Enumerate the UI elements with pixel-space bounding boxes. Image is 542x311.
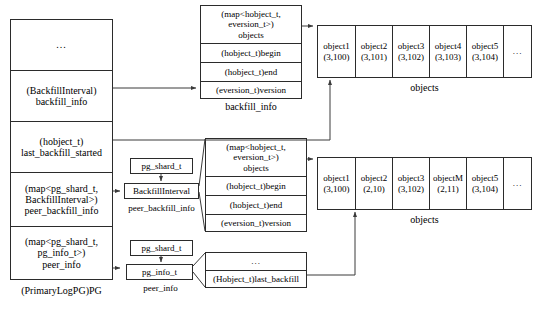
objects-table-bottom-caption: objects xyxy=(317,214,532,225)
object-name: object5 xyxy=(472,41,499,51)
backfill-info-box: (map<hobject_t, eversion_t>) objects (ho… xyxy=(200,5,302,99)
peer-backfill-detail-field-begin: (hobject_t)begin xyxy=(206,176,306,195)
backfill-info-field-objects: (map<hobject_t, eversion_t>) objects xyxy=(201,6,301,43)
backfill-info-field-end: (hobject_t)end xyxy=(201,62,301,81)
peer-info-key-box: pg_shard_t xyxy=(130,240,193,256)
objects-cell: object2 (2,10) xyxy=(355,158,392,209)
object-name: ... xyxy=(513,46,523,56)
pg-field-ellipsis: ... xyxy=(11,20,112,70)
object-version: (3,104) xyxy=(472,52,498,62)
peer-backfill-detail-field-version: (eversion_t)version xyxy=(206,214,306,231)
peer-backfill-value-box: BackfillInterval xyxy=(124,183,199,199)
object-version: (3,100) xyxy=(323,52,349,62)
object-name: objectM xyxy=(433,173,463,183)
backfill-info-caption: backfill_info xyxy=(200,101,302,112)
diagram-canvas: ... (BackfillInterval) backfill_info (ho… xyxy=(0,0,542,311)
peer-backfill-detail-field-end: (hobject_t)end xyxy=(206,195,306,214)
object-name: object5 xyxy=(472,173,499,183)
objects-cell: object1 (3,100) xyxy=(318,26,355,77)
backfill-info-field-begin: (hobject_t)begin xyxy=(201,43,301,62)
pg-field-peer-backfill-info: (map<pg_shard_t, BackfillInterval>) peer… xyxy=(11,172,112,226)
objects-cell-ellipsis: ... xyxy=(503,26,531,77)
object-name: object3 xyxy=(398,173,425,183)
objects-cell: objectM (2,11) xyxy=(429,158,466,209)
objects-cell: object5 (3,104) xyxy=(466,158,503,209)
pg-struct-box: ... (BackfillInterval) backfill_info (ho… xyxy=(10,19,113,280)
object-version: (2,10) xyxy=(363,184,385,194)
objects-cell: object3 (3,102) xyxy=(392,158,429,209)
peer-info-caption: peer_info xyxy=(113,283,208,293)
object-name: object4 xyxy=(435,41,462,51)
object-name: object3 xyxy=(398,41,425,51)
objects-cell-ellipsis: ... xyxy=(503,158,531,209)
object-version: (3,103) xyxy=(435,52,461,62)
edge-peer-info-expand-top xyxy=(193,253,205,266)
pg-struct-caption: (PrimaryLogPG)PG xyxy=(10,285,113,296)
object-name: object1 xyxy=(323,41,350,51)
object-version: (3,104) xyxy=(472,184,498,194)
object-name: ... xyxy=(513,178,523,188)
object-version: (3,102) xyxy=(398,184,424,194)
peer-info-detail-field-last-backfill: (Hobject_t)last_backfill xyxy=(206,270,306,287)
pg-field-last-backfill-started: (hobject_t) last_backfill_started xyxy=(11,121,112,172)
backfill-info-field-version: (eversion_t)version xyxy=(201,81,301,98)
peer-backfill-key-box: pg_shard_t xyxy=(130,158,193,174)
objects-cell: object3 (3,102) xyxy=(392,26,429,77)
object-version: (3,102) xyxy=(398,52,424,62)
object-name: object1 xyxy=(323,173,350,183)
objects-cell: object5 (3,104) xyxy=(466,26,503,77)
pg-field-backfill-info: (BackfillInterval) backfill_info xyxy=(11,70,112,121)
object-name: object2 xyxy=(361,173,388,183)
object-version: (2,11) xyxy=(437,184,458,194)
peer-info-detail-box: ... (Hobject_t)last_backfill xyxy=(205,252,307,288)
objects-table-top: object1 (3,100) object2 (3,101) object3 … xyxy=(317,25,532,78)
peer-backfill-info-caption: peer_backfill_info xyxy=(113,203,210,213)
peer-info-value-box: pg_info_t xyxy=(126,264,193,280)
peer-info-detail-field-ellipsis: ... xyxy=(206,253,306,270)
objects-cell: object4 (3,103) xyxy=(429,26,466,77)
object-version: (3,101) xyxy=(361,52,387,62)
object-version: (3,100) xyxy=(323,184,349,194)
pg-field-peer-info: (map<pg_shard_t, pg_info_t>) peer_info xyxy=(11,226,112,279)
peer-backfill-info-detail-box: (map<hobject_t, eversion_t>) objects (ho… xyxy=(205,138,307,232)
objects-cell: object2 (3,101) xyxy=(355,26,392,77)
objects-table-top-caption: objects xyxy=(317,82,532,93)
object-name: object2 xyxy=(361,41,388,51)
objects-cell: object1 (3,100) xyxy=(318,158,355,209)
objects-table-bottom: object1 (3,100) object2 (2,10) object3 (… xyxy=(317,157,532,210)
peer-backfill-detail-field-objects: (map<hobject_t, eversion_t>) objects xyxy=(206,139,306,176)
